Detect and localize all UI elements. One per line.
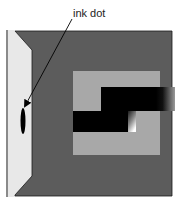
ink-dot-label: ink dot <box>73 7 105 19</box>
upper-black-bar-gradient <box>156 87 175 111</box>
ink-dot <box>21 108 26 134</box>
lower-black-bar <box>73 111 129 132</box>
upper-black-bar <box>101 87 160 111</box>
left-panel <box>8 30 32 197</box>
left-edge-line <box>6 30 8 197</box>
diagram-canvas <box>0 0 183 204</box>
gradient-notch <box>128 111 136 132</box>
